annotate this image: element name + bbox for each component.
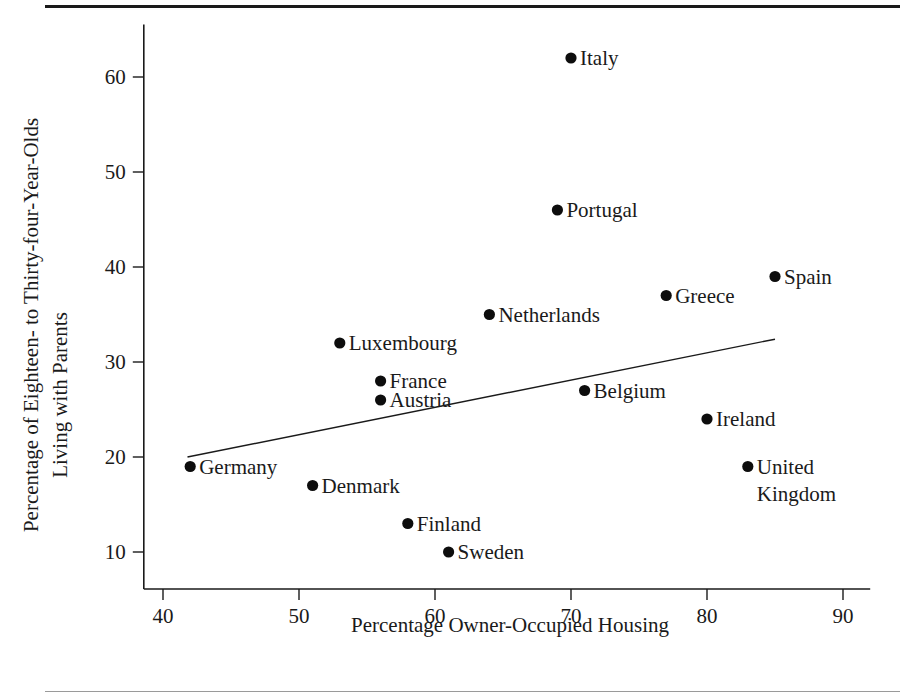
- data-point-label: Finland: [417, 512, 482, 536]
- data-point-label: Denmark: [322, 474, 401, 498]
- data-point-marker: [701, 413, 712, 424]
- data-point-marker: [769, 271, 780, 282]
- data-point-label: Spain: [784, 265, 832, 289]
- data-point-label: Kingdom: [757, 482, 836, 506]
- data-point-label: Sweden: [458, 540, 525, 564]
- scatter-plot-svg: 102030405060 405060708090 ItalyPortugalS…: [0, 0, 908, 696]
- data-point-marker: [443, 546, 454, 557]
- data-point-marker: [579, 385, 590, 396]
- y-axis-title-line-1: Percentage of Eighteen- to Thirty-four-Y…: [19, 118, 43, 532]
- y-axis-tick-label: 10: [105, 540, 126, 564]
- data-point-label: Germany: [199, 455, 278, 479]
- x-axis-tick-label: 90: [833, 604, 854, 628]
- y-axis-title-line-2: Living with Parents: [48, 312, 72, 478]
- y-axis-tick-label: 60: [105, 65, 126, 89]
- data-point-marker: [565, 52, 576, 63]
- data-point-marker: [402, 518, 413, 529]
- regression-trend-line: [187, 339, 775, 457]
- data-point-label: Netherlands: [498, 303, 599, 327]
- data-point-marker: [375, 394, 386, 405]
- trend-line-group: [187, 339, 775, 457]
- data-point-label: United: [757, 455, 815, 479]
- data-point-label: Belgium: [594, 379, 666, 403]
- data-points-group: ItalyPortugalSpainGreeceNetherlandsLuxem…: [185, 46, 837, 564]
- y-axis-tick-label: 20: [105, 445, 126, 469]
- data-point-marker: [484, 309, 495, 320]
- data-point-marker: [334, 337, 345, 348]
- data-point-label: Italy: [580, 46, 619, 70]
- data-point-label: Portugal: [566, 198, 637, 222]
- figure-container: 102030405060 405060708090 ItalyPortugalS…: [0, 0, 908, 696]
- data-point-marker: [661, 290, 672, 301]
- x-axis-tick-label: 50: [289, 604, 310, 628]
- x-axis-tick-label: 40: [153, 604, 174, 628]
- data-point-label: Ireland: [716, 407, 776, 431]
- data-point-marker: [552, 204, 563, 215]
- data-point-marker: [375, 375, 386, 386]
- y-axis-tick-label: 50: [105, 160, 126, 184]
- x-axis-title: Percentage Owner-Occupied Housing: [351, 613, 669, 637]
- data-point-marker: [185, 461, 196, 472]
- data-point-label: Greece: [675, 284, 734, 308]
- data-point-marker: [307, 480, 318, 491]
- y-axis-tick-label: 40: [105, 255, 126, 279]
- y-axis-title-group: Percentage of Eighteen- to Thirty-four-Y…: [19, 118, 72, 532]
- x-axis-tick-label: 80: [697, 604, 718, 628]
- data-point-label: Austria: [390, 388, 453, 412]
- y-axis-ticks: 102030405060: [105, 65, 144, 564]
- data-point-marker: [742, 461, 753, 472]
- y-axis-tick-label: 30: [105, 350, 126, 374]
- data-point-label: Luxembourg: [349, 331, 458, 355]
